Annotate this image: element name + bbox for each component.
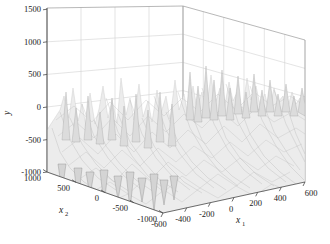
x2-tick-label-neg500: -500 <box>112 203 128 213</box>
y-tick-label-1000: 1000 <box>24 37 41 47</box>
y-axis-ticks <box>43 9 47 172</box>
x1-tick-label-neg200: -200 <box>199 209 215 219</box>
figure-container: 1500 1000 500 0 -500 -1000 y 1000 500 0 … <box>0 0 330 244</box>
x1-tick-label-0: 0 <box>229 204 233 214</box>
x1-tick-label-200: 200 <box>249 198 262 208</box>
x2-axis-title: x 2 <box>58 205 68 217</box>
x2-axis-title-subscript: 2 <box>65 210 68 217</box>
x2-tick-label-1000: 1000 <box>24 173 41 183</box>
x1-axis-title-letter: x <box>235 215 241 225</box>
y-axis: 1500 1000 500 0 -500 -1000 y <box>2 4 47 176</box>
x1-axis-title-subscript: 1 <box>242 220 245 227</box>
y-tick-label-500: 500 <box>28 69 41 79</box>
x1-tick-label-600: 600 <box>305 188 318 198</box>
x1-tick-label-400: 400 <box>274 193 287 203</box>
y-axis-title: y <box>2 110 12 116</box>
y-tick-label-neg500: -500 <box>25 135 41 145</box>
x1-tick-label-neg400: -400 <box>175 214 191 224</box>
surface-plot-3d: 1500 1000 500 0 -500 -1000 y 1000 500 0 … <box>0 0 330 244</box>
x2-axis-title-letter: x <box>58 205 64 215</box>
x2-tick-label-0: 0 <box>95 193 99 203</box>
x2-tick-label-500: 500 <box>57 183 70 193</box>
x1-tick-label-neg600: -600 <box>151 219 167 229</box>
y-tick-label-0: 0 <box>37 102 41 112</box>
x1-axis-title: x 1 <box>235 215 245 227</box>
y-tick-label-1500: 1500 <box>24 4 41 14</box>
